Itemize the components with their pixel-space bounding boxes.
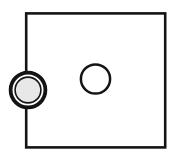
port-inner-ring-circle bbox=[15, 77, 41, 103]
center-hole-circle bbox=[81, 64, 110, 93]
diagram-canvas bbox=[0, 0, 176, 159]
schematic-drawing bbox=[0, 0, 176, 159]
